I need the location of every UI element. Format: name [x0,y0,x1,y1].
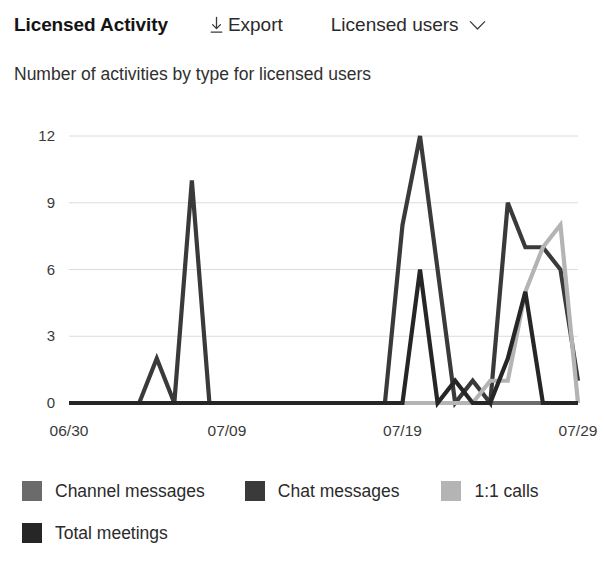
export-button[interactable]: Export [208,14,283,36]
chart-legend: Channel messagesChat messages1:1 callsTo… [22,470,592,554]
y-axis-labels: 036912 [38,127,55,411]
x-axis-tick-label: 07/19 [383,422,422,439]
licensed-activity-card: Licensed Activity Export Licensed users … [0,0,604,584]
x-axis-tick-label: 07/29 [559,422,598,439]
legend-row: Total meetings [22,512,592,554]
y-axis-tick-label: 3 [47,327,55,344]
legend-label: Total meetings [55,523,168,544]
y-axis-tick-label: 9 [47,194,55,211]
legend-item-chat-messages[interactable]: Chat messages [245,481,400,502]
page-title: Licensed Activity [14,14,168,36]
download-icon [208,16,225,35]
x-axis-labels: 06/3007/0907/1907/29 [50,422,598,439]
y-axis-tick-label: 12 [38,127,55,144]
activity-line-chart: 036912 06/3007/0907/1907/29 [0,110,604,455]
chevron-down-icon [469,20,486,31]
y-axis-tick-label: 6 [47,261,55,278]
legend-swatch [441,481,461,501]
x-axis-tick-label: 06/30 [50,422,89,439]
y-axis-tick-label: 0 [47,394,55,411]
legend-label: Channel messages [55,481,205,502]
legend-item-1-1-calls[interactable]: 1:1 calls [441,481,538,502]
audience-filter-value: Licensed users [331,14,459,36]
legend-swatch [22,523,42,543]
chart-svg: 036912 06/3007/0907/1907/29 [0,110,604,455]
audience-filter-dropdown[interactable]: Licensed users [331,14,486,36]
legend-item-channel-messages[interactable]: Channel messages [22,481,205,502]
legend-swatch [245,481,265,501]
legend-swatch [22,481,42,501]
x-axis-tick-label: 07/09 [208,422,247,439]
chart-subtitle: Number of activities by type for license… [14,64,371,85]
legend-label: 1:1 calls [474,481,538,502]
export-label: Export [228,14,283,36]
legend-row: Channel messagesChat messages1:1 calls [22,470,592,512]
legend-label: Chat messages [278,481,400,502]
card-header: Licensed Activity Export Licensed users [14,8,594,42]
legend-item-total-meetings[interactable]: Total meetings [22,523,168,544]
